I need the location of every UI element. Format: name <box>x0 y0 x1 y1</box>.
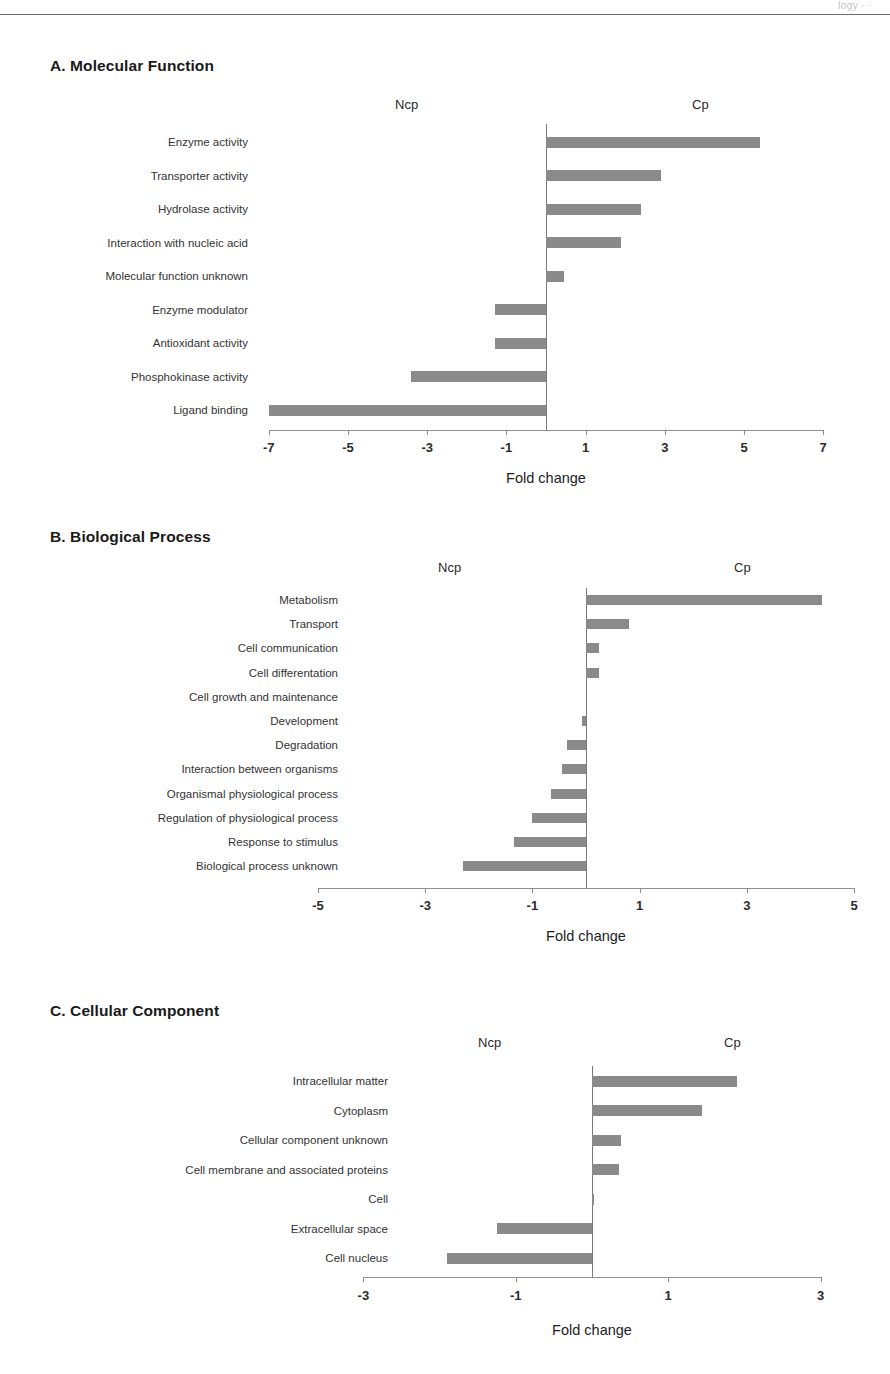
panel-c: C. Cellular ComponentNcpCp-3-113Fold cha… <box>0 0 890 1374</box>
group-label-cp-c: Cp <box>724 1035 741 1050</box>
category-label: Cell <box>0 1193 388 1205</box>
bar <box>592 1135 621 1146</box>
group-label-ncp-c: Ncp <box>478 1035 501 1050</box>
category-label: Cell membrane and associated proteins <box>0 1164 388 1176</box>
category-label: Cell nucleus <box>0 1252 388 1264</box>
bar <box>592 1164 619 1175</box>
x-tick-label-c-3: 3 <box>817 1288 824 1303</box>
x-tick-label-c-2: 1 <box>665 1288 672 1303</box>
category-label: Extracellular space <box>0 1223 388 1235</box>
category-label: Cellular component unknown <box>0 1134 388 1146</box>
x-axis-title-c: Fold change <box>442 1322 742 1338</box>
category-label: Intracellular matter <box>0 1075 388 1087</box>
bar <box>592 1105 702 1116</box>
x-tick-c-1 <box>516 1277 517 1282</box>
bar <box>497 1223 592 1234</box>
category-label: Cytoplasm <box>0 1105 388 1117</box>
x-tick-label-c-0: -3 <box>358 1288 370 1303</box>
panel-title-c: C. Cellular Component <box>50 1002 219 1020</box>
x-tick-c-3 <box>821 1277 822 1282</box>
x-tick-label-c-1: -1 <box>510 1288 522 1303</box>
bar <box>447 1253 592 1264</box>
bar <box>592 1076 737 1087</box>
bar <box>592 1194 594 1205</box>
x-axis-baseline-c <box>363 1277 820 1278</box>
x-tick-c-0 <box>363 1277 364 1282</box>
x-tick-c-2 <box>668 1277 669 1282</box>
